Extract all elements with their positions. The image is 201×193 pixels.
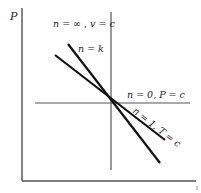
label-n-k: n = k (78, 43, 104, 54)
label-n-infinity: n = ∞ , v = c (53, 18, 115, 29)
label-n-one: n = 1, T = c (131, 105, 184, 150)
y-axis-label: P (9, 10, 18, 23)
label-n-zero: n = 0, P = c (127, 89, 186, 100)
polytropic-diagram: P n = ∞ , v = c n = k n = 0, P = c n = 1… (0, 0, 201, 193)
